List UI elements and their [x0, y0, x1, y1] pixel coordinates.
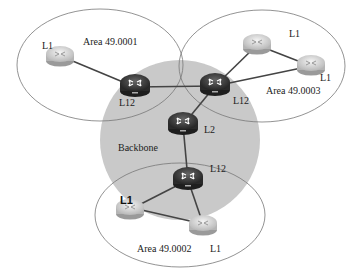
router-label-area3-l1b: L1 — [320, 73, 331, 83]
router-icon-area3-l12[interactable] — [200, 73, 230, 96]
area-label-49-0001: Area 49.0001 — [83, 37, 137, 47]
router-label-area1-l12: L12 — [119, 98, 135, 108]
router-icon-area1-l12[interactable] — [120, 74, 150, 97]
router-label-area3-l1a: L1 — [289, 29, 300, 39]
router-icon-area2-l12[interactable] — [173, 167, 203, 190]
topology-canvas — [0, 0, 360, 270]
router-icon-backbone-l2[interactable] — [168, 112, 198, 135]
router-label-area3-l12: L12 — [233, 96, 249, 106]
router-label-area2-l12: L12 — [210, 164, 226, 174]
backbone-label: Backbone — [118, 143, 158, 153]
router-icon-area2-l1b[interactable] — [189, 215, 217, 236]
area-label-49-0003: Area 49.0003 — [266, 86, 320, 96]
router-label-backbone-l2: L2 — [204, 125, 215, 135]
router-label-area1-l1: L1 — [42, 41, 53, 51]
area-label-49-0002: Area 49.0002 — [137, 244, 191, 254]
router-label-area2-l1a: L1 — [120, 195, 133, 206]
router-label-area2-l1b: L1 — [210, 244, 221, 254]
router-icon-area3-l1a[interactable] — [243, 34, 271, 55]
